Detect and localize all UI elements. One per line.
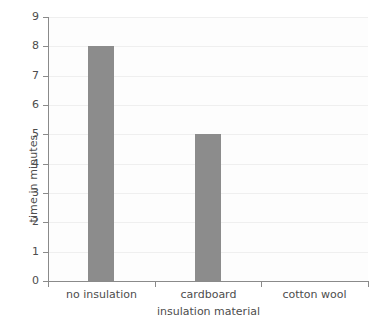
x-axis-tick [48,282,49,287]
x-axis-tick [368,282,369,287]
x-axis-category-label: cardboard [155,288,262,301]
y-axis-tick-label: 3 [9,187,39,198]
y-axis-tick [43,105,48,106]
y-axis-tick-label: 4 [9,158,39,169]
y-axis-tick-label: 1 [9,246,39,257]
y-axis-tick-label: 2 [9,216,39,227]
y-axis-title-text: time in minutes [27,135,40,223]
bar-chart: time in minutes 0123456789 no insulation… [0,0,379,331]
y-axis-tick [43,252,48,253]
y-axis-tick [43,193,48,194]
y-axis-tick [43,76,48,77]
y-axis-tick-label: 6 [9,99,39,110]
bar [195,134,221,281]
y-axis-tick [43,17,48,18]
y-axis-tick [43,46,48,47]
y-axis-tick-label: 0 [9,275,39,286]
y-axis-tick-label: 9 [9,11,39,22]
y-axis-tick-label: 8 [9,40,39,51]
y-axis-line [48,17,49,282]
y-axis-tick-label: 5 [9,128,39,139]
x-axis-category-label: no insulation [48,288,155,301]
x-axis-tick [261,282,262,287]
x-axis-line [48,281,369,282]
x-axis-tick [155,282,156,287]
x-axis-title: insulation material [48,305,369,318]
x-axis-category-label: cotton wool [261,288,368,301]
bars-layer [48,17,368,281]
y-axis-tick [43,164,48,165]
bar [88,46,114,281]
y-axis-tick [43,222,48,223]
y-axis-tick [43,134,48,135]
y-axis-tick-label: 7 [9,70,39,81]
